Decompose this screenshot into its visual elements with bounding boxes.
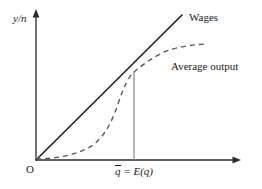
wages-label: Wages <box>189 12 218 23</box>
y-axis-label: y/n <box>13 13 26 24</box>
average-output-label: Average output <box>171 61 238 72</box>
plot-canvas <box>0 0 262 189</box>
wages-line <box>36 15 182 160</box>
economics-figure: y/n O Wages Average output q = E(q) <box>0 0 262 189</box>
x-tick-label-equilibrium: q = E(q) <box>115 165 153 177</box>
x-axis-arrowhead <box>233 157 242 164</box>
x-tick-label-expression: = E(q) <box>121 165 153 177</box>
origin-label: O <box>26 164 34 175</box>
y-axis-arrowhead <box>33 9 40 18</box>
y-axis <box>33 9 40 160</box>
x-axis <box>36 157 241 164</box>
